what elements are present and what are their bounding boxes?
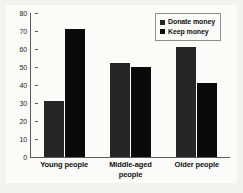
- donate-swatch-icon: [160, 20, 165, 25]
- x-axis-category-labels: Young peopleMiddle-agedpeopleOlder peopl…: [31, 160, 230, 190]
- bar-group: [97, 13, 163, 157]
- legend-item: Donate money: [160, 18, 215, 27]
- bar-donate-money: [176, 47, 196, 157]
- y-axis-tick-label: 50: [6, 64, 27, 71]
- legend-item-label: Keep money: [168, 28, 209, 36]
- chart-legend: Donate moneyKeep money: [155, 13, 221, 41]
- y-axis-tick-label: 10: [6, 136, 27, 143]
- bar-group: [31, 13, 97, 157]
- bar-donate-money: [110, 63, 130, 157]
- legend-item: Keep money: [160, 27, 215, 36]
- y-axis-tick-label: 80: [6, 10, 27, 17]
- x-axis-line: [30, 157, 230, 158]
- bar-donate-money: [44, 101, 64, 157]
- x-axis-category-label-line: Older people: [164, 160, 230, 170]
- y-axis-tick-label: 70: [6, 28, 27, 35]
- x-axis-category-label: Young people: [31, 160, 97, 170]
- x-axis-category-label-line: people: [97, 170, 163, 180]
- keep-swatch-icon: [160, 29, 165, 34]
- y-axis-tick-mark: [35, 157, 38, 158]
- y-axis-tick-labels: 80706050403020100: [6, 0, 27, 193]
- y-axis-tick-label: 40: [6, 82, 27, 89]
- y-axis-tick-label: 60: [6, 46, 27, 53]
- y-axis-tick-label: 0: [6, 154, 27, 161]
- y-axis-tick-label: 30: [6, 100, 27, 107]
- x-axis-category-label: Older people: [164, 160, 230, 170]
- bar-keep-money: [197, 83, 217, 157]
- bar-keep-money: [131, 67, 151, 157]
- bar-keep-money: [65, 29, 85, 157]
- x-axis-category-label: Middle-agedpeople: [97, 160, 163, 179]
- legend-item-label: Donate money: [168, 18, 215, 26]
- bar-chart-figure: 80706050403020100 Young peopleMiddle-age…: [0, 0, 243, 193]
- x-axis-category-label-line: Middle-aged: [97, 160, 163, 170]
- x-axis-category-label-line: Young people: [31, 160, 97, 170]
- y-axis-tick-label: 20: [6, 118, 27, 125]
